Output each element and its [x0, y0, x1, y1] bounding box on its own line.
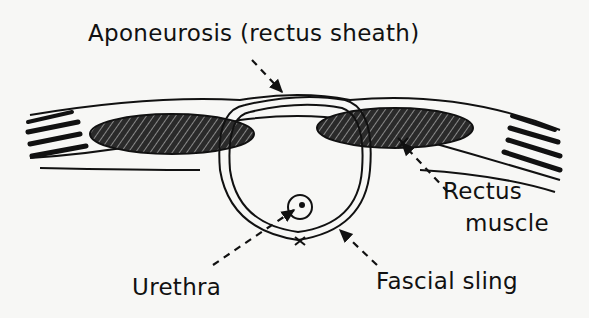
label-muscle: muscle — [465, 212, 549, 235]
urethra — [288, 195, 312, 219]
leader-lines — [213, 60, 448, 265]
rectus-muscle-right — [317, 108, 473, 148]
oblique-muscle-left — [28, 112, 86, 156]
oblique-muscle-right — [504, 116, 560, 170]
label-urethra: Urethra — [132, 276, 221, 299]
label-rectus: Rectus — [443, 180, 522, 203]
label-fascial-sling: Fascial sling — [376, 270, 518, 293]
label-aponeurosis: Aponeurosis (rectus sheath) — [88, 22, 419, 45]
